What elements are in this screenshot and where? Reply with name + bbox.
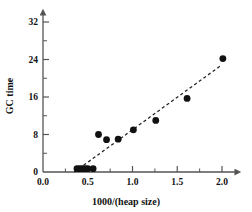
y-axis-ticks (43, 22, 49, 153)
data-point (95, 131, 102, 138)
data-point-group (74, 55, 227, 172)
y-tick-label: 8 (33, 130, 38, 140)
gc-time-scatter-chart: 0.00.51.01.52.0 08162432 1000/(heap size… (0, 0, 252, 212)
data-point (115, 136, 122, 143)
y-tick-label: 0 (33, 167, 38, 177)
x-tick-label: 2.0 (216, 177, 228, 187)
y-tick-label: 16 (29, 92, 39, 102)
y-tick-label: 32 (29, 17, 39, 27)
y-tick-label: 24 (29, 55, 39, 65)
data-point (130, 126, 137, 133)
axes-group (43, 14, 236, 172)
x-tick-label: 1.0 (127, 177, 139, 187)
data-point (152, 117, 159, 124)
chart-svg: 0.00.51.01.52.0 08162432 1000/(heap size… (0, 0, 252, 212)
data-point (103, 136, 110, 143)
trendline-group (74, 66, 220, 172)
x-axis-title: 1000/(heap size) (92, 196, 160, 208)
data-point (90, 165, 97, 172)
data-point (184, 95, 191, 102)
data-point (219, 55, 226, 62)
x-tick-label: 0.5 (82, 177, 94, 187)
dashed-trendline (74, 66, 220, 172)
x-tick-label: 1.5 (171, 177, 183, 187)
x-tick-label: 0.0 (37, 177, 49, 187)
x-axis-tick-labels: 0.00.51.01.52.0 (37, 177, 228, 187)
y-axis-title: GC time (4, 77, 15, 114)
y-axis-tick-labels: 08162432 (29, 17, 39, 177)
